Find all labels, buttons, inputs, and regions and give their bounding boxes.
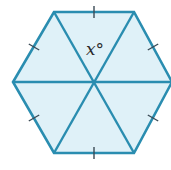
angle-label-x-degrees: x° [86,41,104,58]
hexagon-diagram [0,0,171,170]
